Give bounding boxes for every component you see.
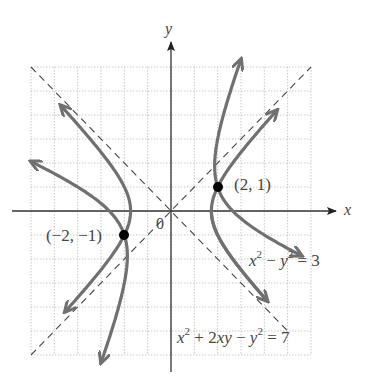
eq2-minus: − [232, 328, 250, 347]
curve-standard-left-branch-upper [61, 105, 131, 211]
point-2-1 [213, 182, 223, 192]
point-label-neg2-neg1: (−2, −1) [46, 226, 102, 246]
x-axis-label: x [344, 201, 351, 219]
eq2-plus2: + 2 [190, 328, 217, 347]
eq2-rhs: = 7 [263, 328, 290, 347]
eq1-x: x [249, 251, 257, 270]
curve-rotated-left-lower [101, 256, 127, 363]
eq1-y: y [280, 251, 288, 270]
eq2-x: x [177, 328, 185, 347]
eq2-xy: xy [217, 328, 232, 347]
curve-rotated-right-upper [215, 59, 241, 166]
equation-label-standard: x2 − y2 = 3 [249, 251, 320, 271]
asymptote-y-eq-neg-x [31, 67, 290, 333]
eq1-rhs: = 3 [293, 251, 320, 270]
point-neg2-neg1 [119, 230, 129, 240]
origin-label: 0 [156, 215, 164, 233]
eq1-minus: − [262, 251, 280, 270]
y-axis-label: y [165, 20, 172, 38]
equation-label-rotated: x2 + 2xy − y2 = 7 [177, 328, 289, 348]
point-label-2-1: (2, 1) [234, 175, 271, 195]
